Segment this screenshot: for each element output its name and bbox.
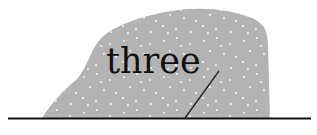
shape-label: three	[106, 41, 201, 81]
diagram-figure: three	[0, 0, 317, 135]
